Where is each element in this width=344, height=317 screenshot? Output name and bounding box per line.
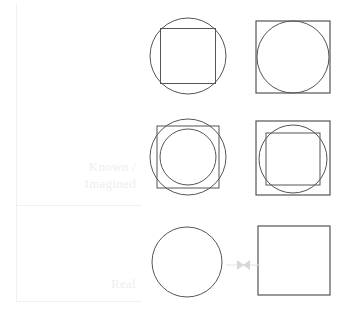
row-label-known-imagined-line1: Known / bbox=[10, 158, 136, 175]
circle-icon bbox=[152, 227, 222, 297]
arrowhead-left-icon bbox=[243, 260, 250, 270]
shape-group-plain-square bbox=[252, 222, 334, 304]
square-inner-icon bbox=[161, 29, 216, 84]
shape-group-square-inscribed-circle bbox=[252, 16, 334, 98]
figure-canvas: Known / Imagined Real bbox=[0, 0, 344, 317]
shape-group-circle-inscribed-square bbox=[148, 16, 228, 96]
row-label-known-imagined-line2: Imagined bbox=[10, 175, 136, 192]
shape-group-circle-square-circle bbox=[148, 117, 228, 197]
square-inner-icon bbox=[266, 133, 320, 185]
cell-row3-col1 bbox=[148, 222, 228, 302]
cell-row2-col2 bbox=[252, 117, 334, 199]
circle-middle-icon bbox=[259, 125, 327, 193]
circle-inner-icon bbox=[257, 21, 329, 93]
shape-group-plain-circle bbox=[148, 222, 228, 302]
row-label-real: Real bbox=[10, 275, 136, 292]
circle-outer-icon bbox=[150, 119, 226, 195]
cell-row2-col1 bbox=[148, 117, 228, 197]
square-icon bbox=[258, 226, 330, 295]
row-label-real-line1: Real bbox=[111, 276, 136, 291]
square-middle-icon bbox=[157, 126, 219, 188]
row-divider-mid bbox=[16, 205, 142, 206]
arrowhead-right-icon bbox=[237, 260, 244, 270]
cell-row3-col2 bbox=[252, 222, 334, 304]
row-label-known-imagined: Known / Imagined bbox=[10, 158, 136, 192]
bowtie-connector bbox=[226, 256, 260, 274]
square-outer-icon bbox=[256, 121, 330, 195]
cell-row1-col2 bbox=[252, 16, 334, 98]
double-headed-arrow-icon bbox=[226, 256, 260, 274]
vertical-axis-line bbox=[16, 4, 17, 302]
circle-outer-icon bbox=[150, 18, 226, 94]
shape-group-square-circle-square bbox=[252, 117, 334, 199]
cell-row1-col1 bbox=[148, 16, 228, 96]
row-divider-bottom bbox=[16, 301, 142, 302]
circle-inner-icon bbox=[160, 129, 216, 185]
